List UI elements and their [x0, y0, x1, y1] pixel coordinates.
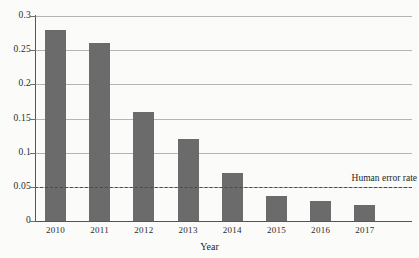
x-tick-label-2014: 2014: [210, 225, 254, 235]
x-tick-label-2013: 2013: [166, 225, 210, 235]
y-tick-mark-0.15: [30, 119, 36, 120]
y-tick-label-0: 0: [1, 215, 31, 225]
human-error-rate-label: Human error rate: [352, 173, 417, 183]
y-tick-label-0.2: 0.2: [1, 78, 31, 88]
x-tick-label-2016: 2016: [299, 225, 343, 235]
y-tick-mark-0.05: [30, 187, 36, 188]
bar-chart-figure: 00.050.10.150.20.250.3 Human error rate …: [0, 0, 419, 258]
gridline-0.3: [35, 16, 412, 17]
human-error-rate-line: [35, 187, 412, 188]
y-tick-mark-0.2: [30, 84, 36, 85]
x-tick-label-2011: 2011: [78, 225, 122, 235]
plot-area: [35, 16, 412, 221]
y-tick-label-0.15: 0.15: [1, 113, 31, 123]
y-tick-label-0.25: 0.25: [1, 44, 31, 54]
y-tick-mark-0.3: [30, 16, 36, 17]
bar-2013: [178, 139, 199, 221]
x-tick-label-2012: 2012: [122, 225, 166, 235]
x-tick-label-2015: 2015: [255, 225, 299, 235]
y-tick-mark-0: [30, 221, 36, 222]
bar-2012: [133, 112, 154, 221]
x-tick-label-2017: 2017: [343, 225, 387, 235]
bar-2010: [45, 30, 66, 221]
bar-2015: [266, 196, 287, 221]
y-tick-mark-0.1: [30, 153, 36, 154]
bar-2011: [89, 43, 110, 221]
y-tick-mark-0.25: [30, 50, 36, 51]
y-tick-label-0.3: 0.3: [1, 10, 31, 20]
y-tick-label-0.05: 0.05: [1, 181, 31, 191]
bar-2014: [222, 173, 243, 221]
x-axis-title: Year: [0, 241, 419, 252]
x-tick-label-2010: 2010: [34, 225, 78, 235]
y-tick-label-0.1: 0.1: [1, 147, 31, 157]
bar-2017: [354, 205, 375, 221]
y-axis-tick-labels: 00.050.10.150.20.250.3: [0, 0, 31, 258]
gridline-0: [35, 221, 412, 222]
bar-2016: [310, 201, 331, 222]
